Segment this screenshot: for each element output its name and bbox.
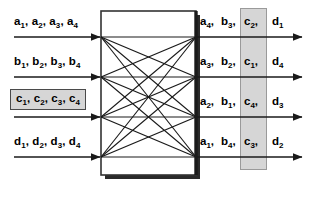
input-label-b: b1, b2, b3, b4 [14, 56, 81, 68]
output-cell-3-4: d3 [272, 96, 283, 108]
output-cell-1-1: a4, [200, 16, 214, 28]
output-cell-2-3: c1, [244, 56, 258, 68]
output-cell-4-2: b4, [221, 136, 236, 148]
output-cell-4-4: d2 [272, 136, 283, 148]
output-cell-1-2: b3, [221, 16, 236, 28]
output-cell-2-1: a3, [200, 56, 214, 68]
input-label-a: a1, a2, a3, a4 [14, 16, 78, 28]
input-label-d: d1, d2, d3, d4 [14, 136, 81, 148]
output-cell-4-3: c3, [244, 136, 258, 148]
output-cell-1-3: c2, [244, 16, 258, 28]
output-cell-2-2: b2, [221, 56, 236, 68]
output-cell-1-4: d1 [272, 16, 283, 28]
output-cell-3-3: c4, [244, 96, 258, 108]
crossbar-switch-diagram: a1, a2, a3, a4 b1, b2, b3, b4 c1, c2, c3… [0, 0, 318, 200]
input-label-c-highlighted: c1, c2, c3, c4 [10, 89, 86, 110]
output-cell-2-4: d4 [272, 56, 283, 68]
output-cell-4-1: a1, [200, 136, 214, 148]
output-cell-3-2: b1, [221, 96, 236, 108]
output-cell-3-1: a2, [200, 96, 214, 108]
